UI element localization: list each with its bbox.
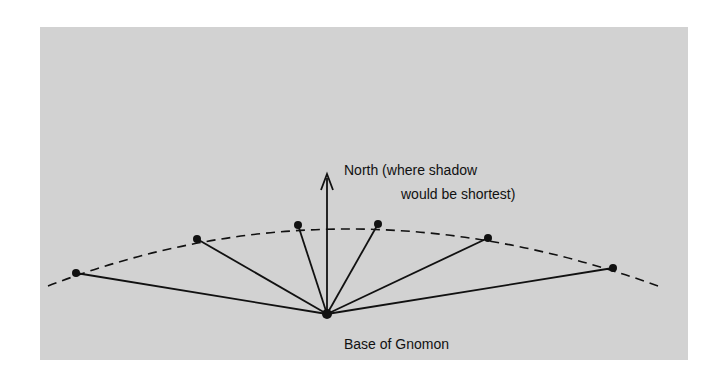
- gnomon-diagram: [0, 0, 719, 388]
- north-label-line1: North (where shadow: [344, 162, 477, 179]
- shadow-lines: [76, 224, 613, 314]
- north-label-line2: would be shortest): [401, 186, 515, 203]
- shadow-tip-dashed-curve: [48, 229, 658, 286]
- base-label: Base of Gnomon: [344, 336, 449, 353]
- gnomon-base-point: [322, 309, 332, 319]
- north-arrow: [321, 174, 333, 314]
